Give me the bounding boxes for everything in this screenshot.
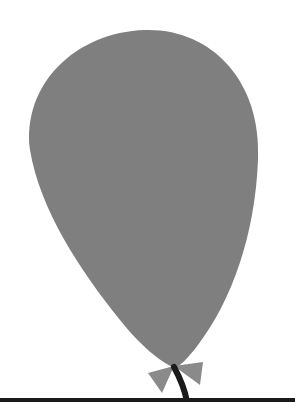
- baseline: [0, 398, 295, 402]
- balloon-illustration: [0, 0, 295, 402]
